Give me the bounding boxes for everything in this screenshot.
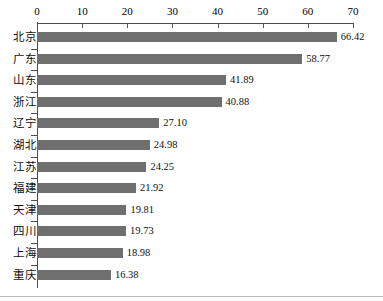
- bar: [37, 97, 222, 107]
- bar: [37, 205, 126, 215]
- category-label: 辽宁: [13, 117, 36, 130]
- bar-value-label: 24.98: [154, 139, 178, 151]
- x-tick-label: 30: [167, 6, 178, 17]
- x-tick-label: 50: [257, 6, 268, 17]
- bar-row: 山东41.89: [0, 71, 383, 93]
- bar-row: 上海18.98: [0, 244, 383, 266]
- x-tick-label: 40: [212, 6, 223, 17]
- bar-value-label: 27.10: [163, 117, 187, 129]
- category-tick-mark: [31, 70, 37, 71]
- bar: [37, 140, 150, 150]
- bar-row: 北京66.42: [0, 28, 383, 50]
- x-tick-label: 60: [302, 6, 313, 17]
- bar-value-label: 21.92: [140, 182, 164, 194]
- bar-value-label: 24.25: [150, 161, 174, 173]
- bar: [37, 270, 111, 280]
- category-label: 江苏: [13, 161, 36, 174]
- category-tick-mark: [31, 135, 37, 136]
- bar-row: 福建21.92: [0, 179, 383, 201]
- x-tick-label: 0: [34, 6, 40, 17]
- category-label: 广东: [13, 53, 36, 66]
- bar-value-label: 16.38: [115, 269, 139, 281]
- category-tick-mark: [31, 178, 37, 179]
- category-tick-mark: [31, 265, 37, 266]
- category-label: 北京: [13, 31, 36, 44]
- x-tick-label: 20: [122, 6, 133, 17]
- bar: [37, 118, 159, 128]
- category-tick-mark: [31, 92, 37, 93]
- bar-row: 广东58.77: [0, 50, 383, 72]
- category-tick-mark: [31, 243, 37, 244]
- bar-value-label: 41.89: [230, 74, 254, 86]
- bar-row: 江苏24.25: [0, 158, 383, 180]
- category-tick-mark: [31, 113, 37, 114]
- x-axis: 010203040506070: [0, 0, 383, 28]
- bar-value-label: 19.81: [130, 204, 154, 216]
- bar: [37, 162, 146, 172]
- plot-area: 北京66.42广东58.77山东41.89浙江40.88辽宁27.10湖北24.…: [0, 28, 383, 290]
- bar: [37, 32, 337, 42]
- bar: [37, 248, 123, 258]
- bar: [37, 54, 302, 64]
- bar: [37, 75, 226, 85]
- category-label: 四川: [13, 225, 36, 238]
- category-label: 浙江: [13, 96, 36, 109]
- bar-row: 天津19.81: [0, 201, 383, 223]
- bar-row: 重庆16.38: [0, 266, 383, 288]
- category-label: 重庆: [13, 269, 36, 282]
- category-label: 湖北: [13, 139, 36, 152]
- category-tick-mark: [31, 221, 37, 222]
- bar-row: 四川19.73: [0, 222, 383, 244]
- x-tick-label: 10: [77, 6, 88, 17]
- bar-row: 辽宁27.10: [0, 114, 383, 136]
- bar-row: 湖北24.98: [0, 136, 383, 158]
- category-label: 山东: [13, 74, 36, 87]
- category-label: 福建: [13, 182, 36, 195]
- bar: [37, 183, 136, 193]
- chart-bottom-border: [0, 296, 383, 297]
- bar-row: 浙江40.88: [0, 93, 383, 115]
- category-tick-mark: [31, 49, 37, 50]
- bar-value-label: 19.73: [130, 225, 154, 237]
- x-tick-label: 70: [348, 6, 359, 17]
- bar-value-label: 18.98: [127, 247, 151, 259]
- bar: [37, 226, 126, 236]
- category-tick-mark: [31, 200, 37, 201]
- category-label: 上海: [13, 247, 36, 260]
- category-label: 天津: [13, 204, 36, 217]
- bar-value-label: 58.77: [306, 53, 330, 65]
- axis-line-top: [37, 23, 353, 24]
- bar-value-label: 40.88: [226, 96, 250, 108]
- bar-chart: 010203040506070 北京66.42广东58.77山东41.89浙江4…: [0, 0, 383, 301]
- bar-value-label: 66.42: [341, 31, 365, 43]
- category-tick-mark: [31, 157, 37, 158]
